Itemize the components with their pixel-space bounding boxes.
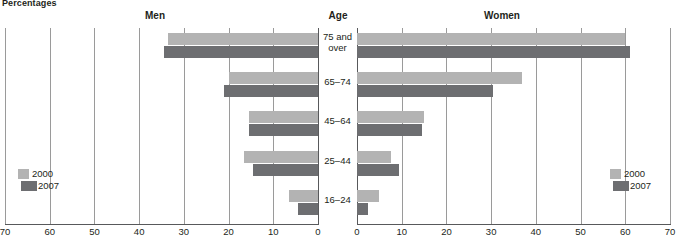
legend-label-2007: 2007 (38, 180, 59, 192)
axis-tick-label: 70 (0, 226, 17, 237)
axis-baseline-women (357, 224, 671, 225)
bar-2000 (357, 33, 625, 45)
gridline (670, 28, 671, 224)
bar-2000 (168, 33, 318, 45)
column-heading-men: Men (125, 10, 185, 21)
bar-2007 (249, 124, 318, 136)
chart-plot-area: 75 andover65–7445–6425–4416–24 (0, 28, 675, 224)
axis-tick-label: 0 (306, 226, 330, 237)
bar-2000 (357, 72, 522, 84)
bar-2000 (229, 72, 318, 84)
bar-2000 (289, 190, 318, 202)
column-heading-women: Women (470, 10, 534, 21)
axis-tick-label: 30 (172, 226, 196, 237)
men-panel (5, 28, 318, 224)
age-group-label: 75 andover (318, 31, 357, 53)
axis-tick-label: 30 (479, 226, 503, 237)
x-axis-women: 010203040506070 (340, 226, 675, 242)
axis-tick-label: 50 (82, 226, 106, 237)
axis-tick-label: 60 (38, 226, 62, 237)
axis-tick-label: 10 (390, 226, 414, 237)
axis-tick-label: 40 (127, 226, 151, 237)
bar-group (5, 67, 318, 106)
age-group-label: 16–24 (318, 194, 357, 205)
bar-2007 (253, 164, 318, 176)
axis-tick-label: 60 (613, 226, 637, 237)
age-group-label: 25–44 (318, 155, 357, 166)
axis-tick-label: 20 (217, 226, 241, 237)
axis-tick-label: 10 (261, 226, 285, 237)
axis-baseline-men (5, 224, 319, 225)
legend-label-2000: 2000 (624, 168, 645, 180)
bar-2007 (357, 46, 630, 58)
women-panel (357, 28, 670, 224)
bar-2007 (298, 203, 318, 215)
bar-2000 (249, 111, 318, 123)
bar-2000 (357, 111, 424, 123)
axis-tick-label: 70 (658, 226, 680, 237)
x-axis-men: 706050403020100 (0, 226, 340, 242)
axis-tick-label: 0 (345, 226, 369, 237)
legend-swatch-2000-icon (610, 169, 621, 179)
axis-tick-label: 50 (569, 226, 593, 237)
axis-tick-label: 40 (524, 226, 548, 237)
bar-2000 (244, 151, 318, 163)
bar-group (5, 28, 318, 67)
age-group-label: 45–64 (318, 115, 357, 126)
bar-2007 (357, 203, 368, 215)
bar-2007 (357, 124, 422, 136)
axis-tick-label: 20 (434, 226, 458, 237)
bar-2000 (357, 190, 379, 202)
bar-group (357, 67, 670, 106)
unit-label: Percentages (2, 0, 57, 8)
bar-group (5, 106, 318, 145)
legend-swatch-2007-icon (21, 181, 37, 191)
legend-swatch-2007-icon (613, 181, 629, 191)
bar-group (357, 106, 670, 145)
legend-label-2007: 2007 (630, 180, 651, 192)
bar-2007 (164, 46, 318, 58)
age-label-column: 75 andover65–7445–6425–4416–24 (318, 28, 357, 224)
column-heading-age: Age (315, 10, 361, 21)
bar-2000 (357, 151, 391, 163)
age-group-label: 65–74 (318, 76, 357, 87)
bar-group (357, 28, 670, 67)
bar-2007 (224, 85, 318, 97)
bar-2007 (357, 164, 399, 176)
legend-swatch-2000-icon (18, 169, 29, 179)
bar-2007 (357, 85, 493, 97)
legend-label-2000: 2000 (32, 168, 53, 180)
